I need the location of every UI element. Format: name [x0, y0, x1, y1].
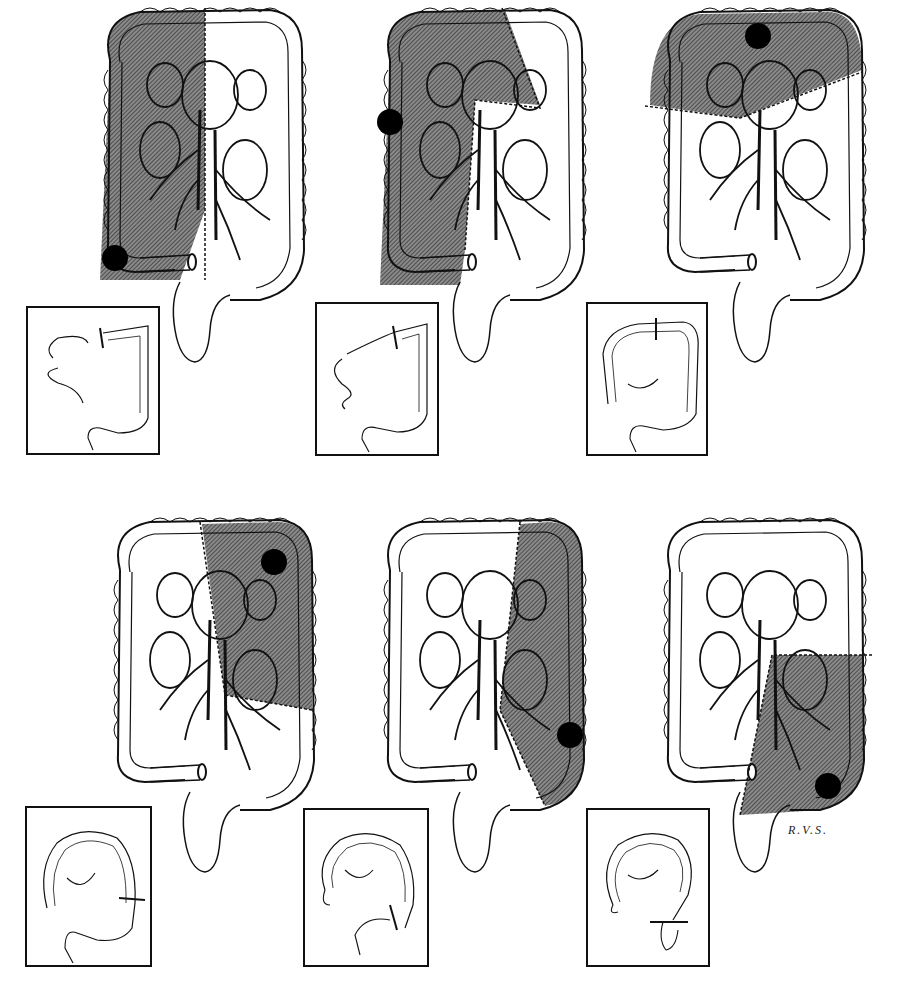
inset-anastomosis — [586, 808, 710, 967]
panel-sigmoid-colectomy: R.V.S. — [640, 510, 902, 989]
tumor-marker — [815, 773, 841, 799]
tumor-marker — [557, 722, 583, 748]
inset-anastomosis — [315, 302, 439, 456]
inset-anastomosis — [586, 302, 708, 456]
inset-anastomosis — [303, 808, 429, 967]
artist-signature: R.V.S. — [788, 823, 828, 838]
tumor-marker — [102, 245, 128, 271]
panel-transverse-colectomy — [640, 0, 902, 480]
inset-anastomosis — [26, 306, 160, 455]
tumor-marker — [261, 549, 287, 575]
inset-anastomosis — [25, 806, 152, 967]
tumor-marker — [745, 23, 771, 49]
tumor-marker — [377, 109, 403, 135]
